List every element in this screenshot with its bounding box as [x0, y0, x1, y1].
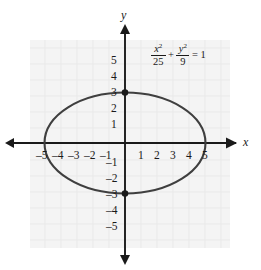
x-tick-label-neg4: –4	[52, 150, 64, 162]
x-tick-label-2: 2	[154, 150, 160, 162]
point-marker-top-covertex	[122, 89, 129, 96]
fraction-denominator-9: 9	[178, 56, 187, 68]
y-tick-label-2: 2	[111, 103, 117, 115]
equation-plus-operator: +	[167, 50, 176, 61]
x-axis-label: x	[243, 136, 248, 148]
fraction-numerator-x-squared: x2	[152, 43, 164, 55]
point-marker-bottom-covertex	[122, 190, 129, 197]
y-tick-label-neg2: –2	[106, 173, 118, 185]
ellipse-graph-figure: –5 –4 –3 –2 –1 1 2 3 4 5 5 4 3 2 1 –1 –2…	[0, 0, 261, 270]
x-tick-label-neg2: –2	[84, 150, 96, 162]
x-axis-left-arrow	[5, 138, 14, 148]
fraction-numerator-y-squared: y2	[177, 43, 189, 55]
x-tick-label-1: 1	[138, 150, 144, 162]
equation-annotation: x2 25 + y2 9 = 1	[150, 38, 230, 72]
y-axis-label: y	[121, 9, 126, 21]
y-axis-top-arrow	[120, 24, 130, 34]
y-tick-label-neg1: –1	[106, 157, 118, 169]
x-tick-label-neg5: –5	[36, 150, 48, 162]
y-tick-label-neg4: –4	[106, 205, 118, 217]
y-axis-bottom-arrow	[120, 255, 130, 265]
y-tick-label-4: 4	[111, 71, 117, 83]
fraction-denominator-25: 25	[151, 56, 166, 68]
fraction-x-squared-over-25: x2 25	[151, 43, 166, 67]
x-tick-label-5: 5	[202, 150, 208, 162]
y-tick-label-neg5: –5	[106, 221, 118, 233]
y-tick-label-3: 3	[111, 87, 117, 99]
y-tick-label-neg3: –3	[106, 189, 118, 201]
x-tick-label-neg3: –3	[68, 150, 80, 162]
equation-equals-one: = 1	[190, 50, 205, 61]
x-tick-label-4: 4	[186, 150, 192, 162]
x-tick-label-3: 3	[170, 150, 176, 162]
fraction-y-squared-over-9: y2 9	[176, 43, 189, 67]
y-tick-label-5: 5	[111, 55, 117, 67]
y-tick-label-1: 1	[111, 119, 117, 131]
